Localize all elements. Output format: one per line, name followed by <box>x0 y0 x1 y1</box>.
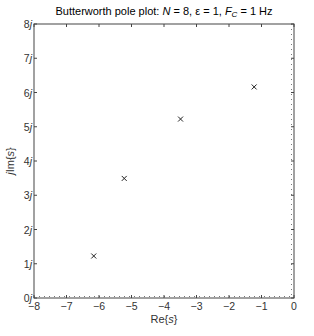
y-tick-label: 7j <box>24 52 33 64</box>
y-tick-label: 6j <box>24 87 33 99</box>
x-tick-label: 0 <box>291 300 297 312</box>
x-tick-label: −4 <box>158 300 170 312</box>
pole-plot-chart: Butterworth pole plot: N = 8, ε = 1, FC … <box>0 0 314 336</box>
y-tick-label: 4j <box>24 155 33 167</box>
x-tick-label: −2 <box>223 300 235 312</box>
y-tick-label: 3j <box>24 189 33 201</box>
y-axis-label: jIm{s} <box>4 147 16 177</box>
x-tick-label: −3 <box>191 300 203 312</box>
y-tick-label: 1j <box>24 258 33 270</box>
y-tick-label: 5j <box>24 121 33 133</box>
chart-title: Butterworth pole plot: N = 8, ε = 1, FC … <box>55 5 272 19</box>
x-axis-label: Re{s} <box>151 313 178 325</box>
y-tick-label: 8j <box>24 18 33 30</box>
y-tick-label: 0j <box>24 292 33 304</box>
plot-area <box>34 24 294 298</box>
x-tick-label: −7 <box>61 300 73 312</box>
x-tick-label: −5 <box>126 300 138 312</box>
x-tick-label: −6 <box>93 300 105 312</box>
y-tick-label: 2j <box>24 224 33 236</box>
x-tick-label: −1 <box>256 300 268 312</box>
